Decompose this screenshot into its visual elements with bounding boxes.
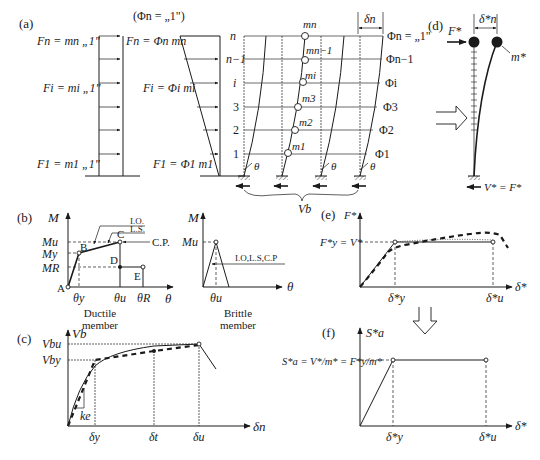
svg-text:δn: δn	[253, 419, 266, 434]
load-fn-uniform: Fn = mn „1"	[36, 34, 101, 48]
load-fi-uniform: Fi = mi „1"	[42, 81, 101, 95]
svg-text:δ*u: δ*u	[486, 291, 504, 305]
top-drift-dimension: δn	[358, 12, 383, 34]
panel-b-label: (b)	[17, 210, 32, 225]
svg-text:My: My	[41, 247, 58, 261]
svg-text:F*: F*	[343, 209, 357, 221]
svg-text:i: i	[233, 76, 236, 90]
svg-text:θy: θy	[73, 291, 85, 305]
svg-text:δ*: δ*	[515, 280, 527, 294]
svg-text:member: member	[82, 319, 118, 331]
svg-text:mn−1: mn−1	[306, 44, 332, 56]
equivalent-force-label: F*	[447, 24, 461, 38]
svg-text:E: E	[134, 270, 141, 282]
svg-text:θ: θ	[254, 160, 260, 172]
svg-text:θ: θ	[331, 160, 337, 172]
svg-text:m2: m2	[299, 116, 313, 128]
svg-text:C: C	[117, 228, 124, 240]
panel-d: (d) δ*n F* m* V* = F*	[428, 12, 526, 193]
svg-text:Φ1: Φ1	[375, 147, 390, 161]
svg-text:Φ2: Φ2	[379, 123, 394, 137]
frame-supports	[238, 176, 366, 180]
panel-c-label: (c)	[17, 331, 31, 346]
svg-text:n−1: n−1	[226, 52, 246, 66]
svg-text:Φi: Φi	[385, 76, 398, 90]
svg-text:I.O,L.S,C.P: I.O,L.S,C.P	[235, 253, 277, 263]
svg-text:2: 2	[233, 123, 239, 137]
svg-text:θR: θR	[137, 291, 151, 305]
panel-f: (f) S*a δ* S*a = V*/m* = F*y/m* δ*y δ*u	[282, 325, 527, 444]
deformed-column	[474, 42, 497, 176]
svg-text:S*a: S*a	[366, 326, 384, 340]
svg-text:F*y = V*: F*y = V*	[319, 236, 363, 248]
uniform-load-pattern: Fn = mn „1" Fi = mi „1" F1 = m1 „1"	[36, 34, 140, 176]
transform-down-arrow-icon	[413, 307, 437, 334]
base-shear-label: Vb	[298, 202, 311, 216]
svg-text:D: D	[110, 254, 118, 266]
svg-text:δ*y: δ*y	[386, 430, 404, 444]
svg-text:member: member	[220, 319, 256, 331]
svg-text:mi: mi	[305, 69, 316, 81]
panel-c: (c) Vb δn ke Vbu Vby δy δt δu	[17, 326, 266, 444]
svg-text:δy: δy	[89, 430, 101, 444]
plastic-hinge-rotations: θ θ θ	[244, 160, 376, 172]
svg-text:M: M	[47, 210, 60, 225]
load-fi-modal: Fi = Φi mi	[142, 81, 195, 95]
drift-label: δn	[364, 12, 376, 26]
svg-text:mn: mn	[303, 18, 317, 30]
load-fn-modal: Fn = Φn mn	[125, 34, 186, 48]
svg-text:m3: m3	[302, 92, 316, 104]
panel-a: (a) (Φn = „1") Fn = mn „1" Fi = mi „1" F…	[19, 9, 431, 216]
svg-text:Φ3: Φ3	[383, 100, 398, 114]
spectral-acceleration-eq: S*a = V*/m* = F*y/m*	[282, 356, 383, 367]
sdof-base-shear-label: V* = F*	[484, 181, 522, 193]
transform-arrow-icon	[436, 106, 467, 130]
svg-text:Vbu: Vbu	[42, 337, 61, 351]
svg-text:δ*: δ*	[515, 419, 527, 433]
panel-a-label: (a)	[19, 16, 33, 31]
svg-text:Vb: Vb	[72, 326, 87, 341]
svg-text:n: n	[230, 29, 236, 43]
svg-text:θ: θ	[165, 291, 172, 306]
panel-f-label: (f)	[322, 325, 335, 340]
panel-b-ductile: (b) M θ A B C D E Mu My MR θy θu θR	[17, 210, 173, 331]
pushover-analysis-figure: (a) (Φn = „1") Fn = mn „1" Fi = mi „1" F…	[0, 0, 540, 460]
panel-e: (e) F* δ* F*y = V* δ*y δ*u	[319, 207, 527, 305]
mass-displaced	[492, 37, 503, 48]
svg-text:Φn−1: Φn−1	[386, 52, 414, 66]
floor-labels: n n−1 i 3 2 1	[226, 29, 246, 161]
panel-d-label: (d)	[428, 18, 443, 33]
mode-shape-labels: Φn = „1" Φn−1 Φi Φ3 Φ2 Φ1	[375, 29, 431, 161]
load-f1-uniform: F1 = m1 „1"	[36, 157, 101, 171]
svg-text:θu: θu	[114, 291, 126, 305]
svg-text:B: B	[80, 241, 87, 253]
svg-text:θu: θu	[210, 291, 222, 305]
svg-text:ke: ke	[80, 409, 91, 423]
svg-text:δu: δu	[193, 430, 205, 444]
svg-text:3: 3	[233, 100, 239, 114]
panel-e-label: (e)	[321, 207, 335, 222]
svg-text:MR: MR	[41, 261, 60, 275]
svg-text:δ*u: δ*u	[479, 430, 497, 444]
svg-text:Vby: Vby	[42, 353, 61, 367]
svg-text:θ: θ	[287, 279, 294, 294]
load-f1-modal: F1 = Φ1 m1	[152, 157, 213, 171]
svg-text:δ*y: δ*y	[388, 291, 406, 305]
svg-text:L.S.: L.S.	[130, 224, 145, 234]
svg-text:A: A	[57, 282, 65, 294]
svg-text:M: M	[187, 210, 200, 225]
sdof-drift-label: δ*n	[479, 12, 497, 26]
svg-text:Brittle: Brittle	[224, 307, 252, 319]
frame-deformed-columns	[244, 36, 383, 176]
mass-original	[469, 37, 480, 48]
svg-text:Φn = „1": Φn = „1"	[387, 29, 431, 43]
panel-b-brittle: M θ Mu θu I.O,L.S,C.P Brittle member	[181, 210, 294, 331]
phi-normalization-note: (Φn = „1")	[133, 9, 185, 23]
svg-text:Ductile: Ductile	[84, 307, 116, 319]
svg-text:Mu: Mu	[181, 235, 198, 249]
svg-text:m1: m1	[292, 140, 305, 152]
modal-load-arrows	[184, 59, 218, 154]
svg-text:1: 1	[233, 147, 239, 161]
svg-text:θ: θ	[370, 160, 376, 172]
uniform-load-arrows	[99, 36, 120, 154]
